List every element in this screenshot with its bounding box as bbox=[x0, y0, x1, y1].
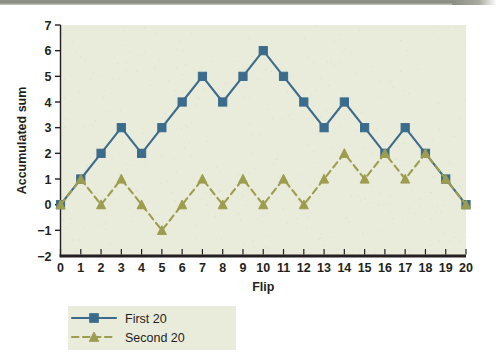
texture-dot bbox=[136, 190, 137, 191]
texture-dot bbox=[112, 159, 113, 160]
texture-dot bbox=[64, 79, 65, 80]
texture-dot bbox=[414, 214, 415, 215]
texture-dot bbox=[145, 160, 146, 161]
texture-dot bbox=[167, 104, 168, 105]
texture-dot bbox=[404, 232, 405, 233]
texture-dot bbox=[283, 39, 284, 40]
texture-dot bbox=[166, 230, 167, 231]
texture-dot bbox=[202, 144, 203, 145]
texture-dot bbox=[433, 154, 434, 155]
texture-dot bbox=[339, 35, 340, 36]
texture-dot bbox=[362, 233, 363, 234]
texture-dot bbox=[328, 85, 329, 86]
texture-dot bbox=[128, 170, 129, 171]
texture-dot bbox=[106, 111, 107, 112]
texture-dot bbox=[114, 89, 115, 90]
texture-dot bbox=[224, 214, 225, 215]
texture-dot bbox=[450, 69, 451, 70]
x-axis-tick-label: 9 bbox=[239, 261, 246, 275]
texture-dot bbox=[176, 171, 177, 172]
texture-dot bbox=[117, 65, 118, 66]
texture-dot bbox=[208, 215, 209, 216]
texture-dot bbox=[320, 234, 321, 235]
texture-dot bbox=[396, 159, 397, 160]
texture-dot bbox=[212, 185, 213, 186]
texture-dot bbox=[183, 47, 184, 48]
texture-dot bbox=[100, 116, 101, 117]
texture-dot bbox=[256, 111, 257, 112]
texture-dot bbox=[462, 157, 463, 158]
texture-dot bbox=[340, 223, 341, 224]
texture-dot bbox=[234, 157, 235, 158]
texture-dot bbox=[346, 229, 347, 230]
texture-dot bbox=[375, 109, 376, 110]
texture-dot bbox=[259, 96, 260, 97]
texture-dot bbox=[345, 49, 346, 50]
texture-dot bbox=[77, 119, 78, 120]
texture-dot bbox=[374, 83, 375, 84]
texture-dot bbox=[187, 177, 188, 178]
texture-dot bbox=[65, 40, 66, 41]
texture-dot bbox=[121, 164, 122, 165]
texture-dot bbox=[147, 208, 148, 209]
y-axis-tick-label: 3 bbox=[45, 121, 52, 135]
texture-dot bbox=[327, 61, 328, 62]
y-axis-title: Accumulated sum bbox=[15, 87, 29, 195]
texture-dot bbox=[329, 182, 330, 183]
texture-dot bbox=[464, 172, 465, 173]
texture-dot bbox=[190, 123, 191, 124]
texture-dot bbox=[257, 103, 258, 104]
x-axis-tick-label: 10 bbox=[256, 261, 270, 275]
texture-dot bbox=[382, 199, 383, 200]
texture-dot bbox=[197, 94, 198, 95]
x-axis-tick-label: 19 bbox=[439, 261, 453, 275]
texture-dot bbox=[140, 38, 141, 39]
texture-dot bbox=[278, 72, 279, 73]
x-axis-tick-label: 13 bbox=[317, 261, 331, 275]
y-axis-tick-label: 6 bbox=[45, 44, 52, 58]
texture-dot bbox=[169, 79, 170, 80]
texture-dot bbox=[145, 51, 146, 52]
texture-dot bbox=[73, 39, 74, 40]
texture-dot bbox=[375, 253, 376, 254]
texture-dot bbox=[314, 145, 315, 146]
y-axis-tick-label: 5 bbox=[45, 70, 52, 84]
texture-dot bbox=[429, 192, 430, 193]
texture-dot bbox=[438, 92, 439, 93]
texture-dot bbox=[235, 184, 236, 185]
texture-dot bbox=[190, 31, 191, 32]
texture-dot bbox=[101, 145, 102, 146]
texture-dot bbox=[321, 78, 322, 79]
texture-dot bbox=[359, 224, 360, 225]
texture-dot bbox=[371, 153, 372, 154]
texture-dot bbox=[266, 177, 267, 178]
texture-dot bbox=[63, 194, 64, 195]
texture-dot bbox=[90, 78, 91, 79]
texture-dot bbox=[169, 154, 170, 155]
texture-dot bbox=[242, 65, 243, 66]
texture-dot bbox=[142, 109, 143, 110]
top-edge-strip bbox=[0, 0, 497, 5]
texture-dot bbox=[184, 232, 185, 233]
texture-dot bbox=[310, 185, 311, 186]
texture-dot bbox=[252, 126, 253, 127]
texture-dot bbox=[85, 164, 86, 165]
texture-dot bbox=[420, 44, 421, 45]
texture-dot bbox=[143, 231, 144, 232]
texture-dot bbox=[462, 221, 463, 222]
texture-dot bbox=[345, 218, 346, 219]
texture-dot bbox=[129, 49, 130, 50]
texture-dot bbox=[112, 99, 113, 100]
texture-dot bbox=[448, 28, 449, 29]
texture-dot bbox=[71, 214, 72, 215]
texture-dot bbox=[311, 79, 312, 80]
texture-dot bbox=[465, 42, 466, 43]
texture-dot bbox=[117, 187, 118, 188]
texture-dot bbox=[335, 241, 336, 242]
texture-dot bbox=[269, 236, 270, 237]
texture-dot bbox=[278, 155, 279, 156]
texture-dot bbox=[61, 194, 62, 195]
texture-dot bbox=[252, 153, 253, 154]
texture-dot bbox=[199, 99, 200, 100]
texture-dot bbox=[177, 76, 178, 77]
